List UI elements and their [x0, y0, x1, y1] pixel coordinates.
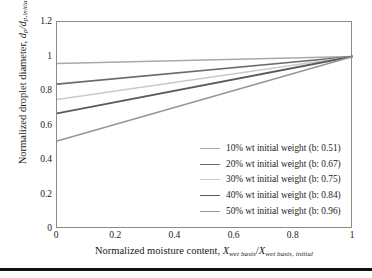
legend-swatch-40pct — [200, 195, 220, 196]
legend-label-50pct: 50% wt initial weight (b: 0.96) — [226, 207, 341, 216]
y-axis-title-wrapper: Normalized droplet diameter, dp/dp,initi… — [14, 20, 32, 228]
legend-item-40pct[interactable]: 40% wt initial weight (b: 0.84) — [200, 188, 350, 204]
legend-label-10pct: 10% wt initial weight (b: 0.51) — [226, 144, 341, 153]
bottom-divider-rule — [0, 268, 372, 271]
legend-item-20pct[interactable]: 20% wt initial weight (b: 0.67) — [200, 157, 350, 173]
x-tick-label-0: 0 — [54, 231, 59, 241]
legend: 10% wt initial weight (b: 0.51) 20% wt i… — [200, 141, 350, 219]
legend-label-20pct: 20% wt initial weight (b: 0.67) — [226, 160, 341, 169]
x-axis-title-sub1: wet basis — [229, 250, 256, 258]
legend-label-30pct: 30% wt initial weight (b: 0.75) — [226, 175, 341, 184]
y-axis-title-sub2: p,initial — [21, 0, 29, 21]
x-tick-label-0.2: 0.2 — [109, 231, 121, 241]
legend-swatch-30pct — [200, 179, 220, 180]
x-tick-label-0.4: 0.4 — [168, 231, 180, 241]
x-axis-title: Normalized moisture content, Xwet basis/… — [56, 245, 352, 258]
y-axis-title: Normalized droplet diameter, dp/dp,initi… — [17, 0, 30, 186]
figure-container: 1.2 1 0.8 0.6 0.4 0.2 0 0 0.2 0.4 0.6 0.… — [0, 0, 372, 278]
legend-item-10pct[interactable]: 10% wt initial weight (b: 0.51) — [200, 141, 350, 157]
x-axis-title-sub2: wet basis, initial — [265, 250, 313, 258]
legend-swatch-20pct — [200, 164, 220, 165]
legend-label-40pct: 40% wt initial weight (b: 0.84) — [226, 191, 341, 200]
legend-item-30pct[interactable]: 30% wt initial weight (b: 0.75) — [200, 172, 350, 188]
y-axis-title-slash: / — [17, 26, 28, 29]
x-tick-label-0.6: 0.6 — [228, 231, 240, 241]
series-group — [57, 57, 353, 142]
x-tick-label-0.8: 0.8 — [287, 231, 299, 241]
y-axis-title-var1: d — [17, 33, 28, 38]
y-axis-title-main: Normalized droplet diameter, — [17, 38, 28, 164]
x-tick-label-1: 1 — [350, 231, 355, 241]
legend-item-50pct[interactable]: 50% wt initial weight (b: 0.96) — [200, 203, 350, 219]
y-axis-title-var2: d — [17, 21, 28, 26]
y-axis-title-sub1: p — [21, 29, 29, 33]
legend-swatch-50pct — [200, 211, 220, 212]
legend-swatch-10pct — [200, 148, 220, 149]
x-axis-title-main: Normalized moisture content, — [95, 245, 223, 256]
series-line-4 — [57, 57, 353, 114]
series-line-5 — [57, 57, 353, 142]
